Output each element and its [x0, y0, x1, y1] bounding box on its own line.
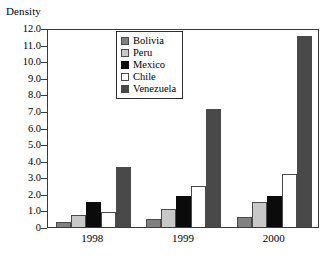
- bar-venezuela-1999[interactable]: [206, 109, 221, 227]
- y-tick-mark: [41, 228, 47, 229]
- x-tick-label-1999: 1999: [172, 232, 194, 244]
- y-tick-label: 12.0: [23, 24, 41, 35]
- y-tick-label: 1.0: [28, 206, 41, 217]
- bar-mexico-1999[interactable]: [176, 196, 191, 228]
- legend-label: Peru: [133, 48, 152, 59]
- legend-swatch-chile-icon: [121, 73, 129, 81]
- legend-swatch-venezuela-icon: [121, 85, 129, 93]
- legend-label: Mexico: [133, 60, 165, 71]
- y-tick-label: 3.0: [28, 173, 41, 184]
- bar-chile-1999[interactable]: [191, 186, 206, 227]
- bar-mexico-2000[interactable]: [267, 196, 282, 228]
- y-tick-label: 7.0: [28, 107, 41, 118]
- density-bar-chart: Density 12.011.010.09.08.07.06.05.04.03.…: [0, 0, 329, 260]
- bar-peru-1998[interactable]: [71, 215, 86, 227]
- legend-item-chile[interactable]: Chile: [121, 71, 176, 83]
- legend-swatch-bolivia-icon: [121, 37, 129, 45]
- legend-swatch-mexico-icon: [121, 61, 129, 69]
- legend-label: Venezuela: [133, 84, 176, 95]
- bar-peru-2000[interactable]: [252, 202, 267, 227]
- bar-chile-2000[interactable]: [282, 174, 297, 227]
- legend-item-bolivia[interactable]: Bolivia: [121, 35, 176, 47]
- bar-mexico-1998[interactable]: [86, 202, 101, 227]
- y-tick-label: 4.0: [28, 156, 41, 167]
- legend-item-peru[interactable]: Peru: [121, 47, 176, 59]
- chart-legend: BoliviaPeruMexicoChileVenezuela: [116, 31, 183, 99]
- y-tick-label: 9.0: [28, 74, 41, 85]
- y-tick-label: 10.0: [23, 57, 41, 68]
- y-tick-label: 6.0: [28, 123, 41, 134]
- y-axis-title: Density: [6, 5, 41, 17]
- y-tick-label: 8.0: [28, 90, 41, 101]
- legend-label: Bolivia: [133, 36, 164, 47]
- bar-peru-1999[interactable]: [161, 209, 176, 227]
- legend-swatch-peru-icon: [121, 49, 129, 57]
- legend-item-mexico[interactable]: Mexico: [121, 59, 176, 71]
- bar-bolivia-1998[interactable]: [56, 222, 71, 227]
- legend-label: Chile: [133, 72, 156, 83]
- y-tick-label: 11.0: [23, 40, 41, 51]
- legend-item-venezuela[interactable]: Venezuela: [121, 83, 176, 95]
- bar-venezuela-2000[interactable]: [297, 36, 312, 227]
- x-axis: 199819992000: [47, 232, 319, 252]
- x-tick-label-2000: 2000: [263, 232, 285, 244]
- x-tick-label-1998: 1998: [81, 232, 103, 244]
- bar-bolivia-2000[interactable]: [237, 217, 252, 227]
- bar-venezuela-1998[interactable]: [116, 167, 131, 227]
- y-axis: 12.011.010.09.08.07.06.05.04.03.02.01.00: [0, 29, 41, 228]
- bar-bolivia-1999[interactable]: [146, 219, 161, 227]
- bar-chile-1998[interactable]: [101, 212, 116, 227]
- y-tick-label: 5.0: [28, 140, 41, 151]
- bar-group-2000: [229, 30, 320, 227]
- y-tick-label: 2.0: [28, 190, 41, 201]
